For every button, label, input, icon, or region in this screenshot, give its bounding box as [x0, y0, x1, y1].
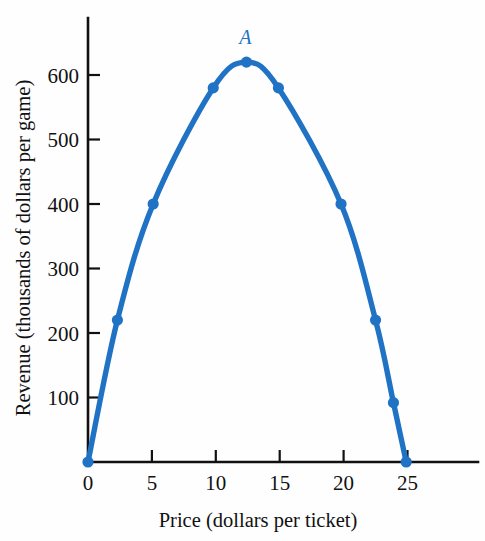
x-tick-label-5: 5: [147, 471, 158, 495]
data-point-0-8: [388, 397, 399, 408]
data-point-0-3: [208, 82, 219, 93]
y-tick-label-600: 600: [48, 64, 80, 88]
x-axis-ticks: [152, 450, 408, 462]
data-point-0-1: [112, 315, 123, 326]
y-axis-ticks: [88, 75, 100, 398]
x-tick-label-25: 25: [397, 471, 418, 495]
data-point-0-9: [401, 456, 412, 467]
y-axis-tick-labels: 100200300400500600: [48, 64, 80, 411]
curve-annotations: A: [237, 26, 252, 48]
data-point-0-4: [241, 57, 252, 68]
y-tick-label-400: 400: [48, 193, 80, 217]
chart-canvas: 100200300400500600 0510152025 A Price (d…: [0, 0, 485, 541]
series-line-0: [88, 62, 406, 462]
data-point-0-6: [335, 198, 346, 209]
revenue-price-chart-figure: 100200300400500600 0510152025 A Price (d…: [0, 0, 485, 541]
data-point-0-5: [273, 82, 284, 93]
data-point-0-2: [148, 198, 159, 209]
annotation-label-A: A: [237, 26, 252, 48]
data-point-0-7: [370, 315, 381, 326]
x-tick-label-15: 15: [269, 471, 290, 495]
data-point-0-0: [82, 456, 93, 467]
x-axis-title: Price (dollars per ticket): [159, 509, 358, 532]
x-tick-label-10: 10: [205, 471, 226, 495]
revenue-curve: [88, 62, 406, 462]
axes: [88, 18, 478, 462]
x-tick-label-0: 0: [83, 471, 94, 495]
y-axis-title: Revenue (thousands of dollars per game): [12, 80, 35, 416]
y-tick-label-500: 500: [48, 128, 80, 152]
y-tick-label-200: 200: [48, 322, 80, 346]
y-tick-label-300: 300: [48, 257, 80, 281]
x-axis-tick-labels: 0510152025: [83, 471, 418, 495]
y-tick-label-100: 100: [48, 386, 80, 410]
x-tick-label-20: 20: [333, 471, 354, 495]
